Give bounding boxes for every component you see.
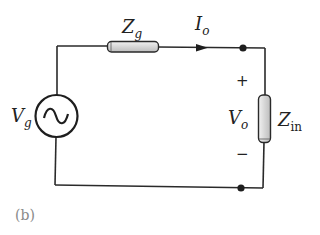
- load-impedance-zin: [259, 95, 271, 143]
- source-label: Vg: [11, 105, 32, 130]
- ac-voltage-source: [36, 95, 78, 137]
- zg-label: Zg: [121, 16, 143, 41]
- figure-label: (b): [15, 207, 35, 223]
- terminal-node-bottom: [237, 184, 244, 191]
- output-voltage-label: Vo: [228, 107, 248, 132]
- current-arrow-icon: [196, 44, 208, 52]
- terminal-node-top: [239, 44, 246, 51]
- circuit-diagram: Vg Zg Io Zin + Vo − (b): [0, 0, 320, 235]
- wire-bottom: [55, 185, 263, 188]
- series-impedance-zg: [108, 42, 159, 53]
- current-label: Io: [194, 13, 209, 38]
- wire-right-bottom: [263, 142, 264, 188]
- minus-sign: −: [236, 145, 249, 163]
- wire-top-right: [158, 47, 265, 48]
- zin-body: [259, 95, 271, 143]
- wire-left-bottom: [55, 137, 56, 185]
- plus-sign: +: [236, 72, 249, 90]
- zg-body: [108, 42, 159, 53]
- zin-label: Zin: [277, 109, 302, 134]
